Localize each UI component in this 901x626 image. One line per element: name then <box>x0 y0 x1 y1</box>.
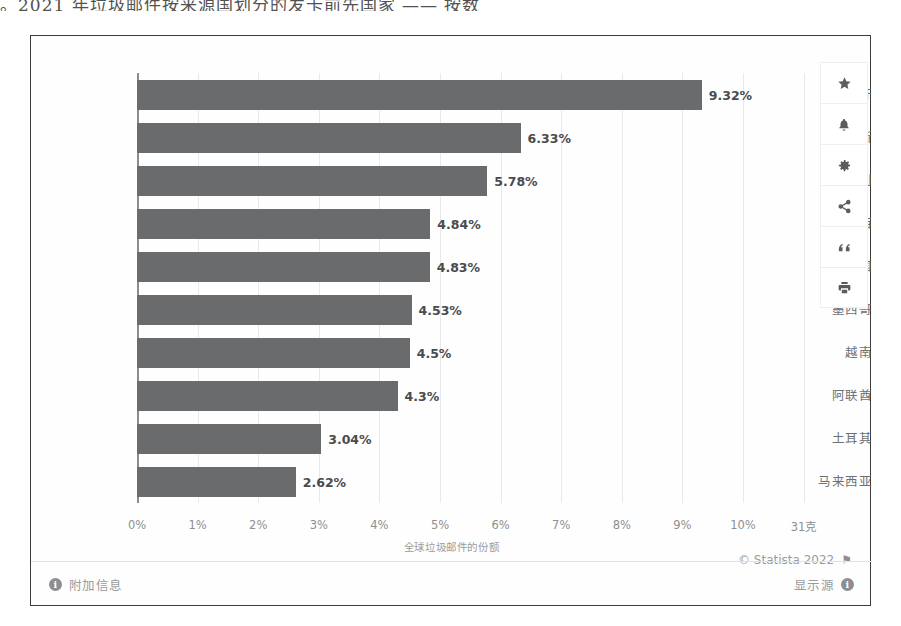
bar-row: 9.32% <box>137 80 809 110</box>
bar[interactable] <box>137 252 430 282</box>
bar-row: 4.84% <box>137 209 809 239</box>
printer-icon[interactable] <box>820 267 868 308</box>
bar-row: 3.04% <box>137 424 809 454</box>
x-tick-label: 5% <box>431 518 449 532</box>
bar-value-label: 4.83% <box>430 259 480 274</box>
bar-value-label: 6.33% <box>521 130 571 145</box>
x-tick-label: 1% <box>188 518 206 532</box>
chart-side-toolbar <box>820 62 868 308</box>
bar-row: 2.62% <box>137 467 809 497</box>
bar[interactable] <box>137 123 521 153</box>
x-tick-label: 10% <box>730 518 756 532</box>
bar-value-label: 9.32% <box>702 87 752 102</box>
info-icon: i <box>841 578 854 591</box>
bar[interactable] <box>137 295 412 325</box>
share-icon[interactable] <box>820 185 868 226</box>
statista-chart-card: 西班牙俄罗斯意大利巴西德国墨西哥越南阿联酋土耳其马来西亚 9.32%6.33%5… <box>30 35 871 606</box>
bar-row: 4.53% <box>137 295 809 325</box>
show-source-label: 显示源 <box>794 575 834 594</box>
bar[interactable] <box>137 381 398 411</box>
bar[interactable] <box>137 166 487 196</box>
bar-value-label: 2.62% <box>296 474 346 489</box>
bar-row: 4.83% <box>137 252 809 282</box>
bar[interactable] <box>137 209 430 239</box>
x-tick-label: 0% <box>128 518 146 532</box>
bar-row: 5.78% <box>137 166 809 196</box>
info-icon: i <box>49 578 62 591</box>
star-icon[interactable] <box>820 62 868 103</box>
additional-info-button[interactable]: i 附加信息 <box>49 575 123 594</box>
bar-value-label: 5.78% <box>487 173 537 188</box>
scanned-page-header-text: 。2021 年垃圾邮件按来源国划分的发卡前先国家 —— 按数 <box>0 0 901 11</box>
x-tick-label: 8% <box>613 518 631 532</box>
bar[interactable] <box>137 80 702 110</box>
bar-value-label: 3.04% <box>321 431 371 446</box>
x-tick-label: 2% <box>249 518 267 532</box>
bar[interactable] <box>137 338 410 368</box>
x-tick-label: 4% <box>370 518 388 532</box>
x-tick-label: 9% <box>673 518 691 532</box>
x-tick-label: 31克 <box>791 518 817 534</box>
bar-value-label: 4.5% <box>410 345 452 360</box>
chart-plot-area: 西班牙俄罗斯意大利巴西德国墨西哥越南阿联酋土耳其马来西亚 9.32%6.33%5… <box>31 36 872 516</box>
bars-container: 9.32%6.33%5.78%4.84%4.83%4.53%4.5%4.3%3.… <box>137 73 809 503</box>
bar-row: 4.5% <box>137 338 809 368</box>
bar[interactable] <box>137 424 321 454</box>
bar-row: 4.3% <box>137 381 809 411</box>
bar-value-label: 4.3% <box>398 388 440 403</box>
additional-info-label: 附加信息 <box>69 575 123 594</box>
x-tick-label: 3% <box>310 518 328 532</box>
gear-icon[interactable] <box>820 144 868 185</box>
bell-icon[interactable] <box>820 103 868 144</box>
x-tick-label: 7% <box>552 518 570 532</box>
bar[interactable] <box>137 467 296 497</box>
bar-value-label: 4.53% <box>412 302 462 317</box>
quote-icon[interactable] <box>820 226 868 267</box>
chart-footer: i 附加信息 显示源 i <box>31 562 872 607</box>
bar-row: 6.33% <box>137 123 809 153</box>
show-source-button[interactable]: 显示源 i <box>794 575 854 594</box>
x-tick-label: 6% <box>491 518 509 532</box>
bar-value-label: 4.84% <box>430 216 480 231</box>
x-axis-title: 全球垃圾邮件的份额 <box>31 539 872 554</box>
